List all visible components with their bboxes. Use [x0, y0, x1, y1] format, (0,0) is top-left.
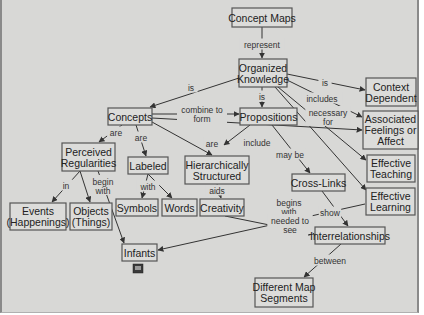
concept-node-propositions[interactable]: Propositions — [240, 108, 298, 125]
concept-map-diagram: representisisisincludesnecessaryforcombi… — [0, 0, 424, 315]
concept-node-cross-links[interactable]: Cross-Links — [291, 174, 346, 191]
concept-node-label: Infants — [124, 247, 156, 259]
link-label: show — [320, 208, 341, 218]
concept-node-label: ContextDependent — [365, 81, 416, 104]
link-label: between — [314, 256, 346, 266]
concept-node-label: EffectiveLearning — [370, 190, 411, 213]
concept-node-label: Cross-Links — [291, 177, 346, 189]
concept-node-effective-learning[interactable]: EffectiveLearning — [366, 188, 415, 215]
concept-node-label: PerceivedRegularities — [61, 146, 116, 169]
link-label: beginwith — [93, 177, 114, 196]
link-label: is — [259, 92, 265, 102]
concept-node-effective-teaching[interactable]: EffectiveTeaching — [367, 155, 415, 182]
concept-node-concept-maps[interactable]: Concept Maps — [228, 8, 296, 27]
edge-perceived_regularities-to-objects — [80, 171, 90, 202]
concept-node-perceived-regularities[interactable]: PerceivedRegularities — [61, 143, 116, 171]
concept-node-label: HierarchicallyStructured — [185, 159, 249, 182]
concept-node-concepts[interactable]: Concepts — [108, 108, 152, 125]
link-label: in — [63, 181, 70, 191]
concept-node-infants[interactable]: Infants — [122, 244, 157, 261]
concept-node-label: EffectiveTeaching — [370, 157, 412, 180]
concept-node-label: Words — [164, 202, 194, 214]
link-label: with — [139, 182, 155, 192]
small-document-icon[interactable] — [133, 264, 143, 273]
concept-node-creativity[interactable]: Creativity — [200, 199, 245, 216]
concept-node-label: Symbols — [117, 202, 157, 214]
concept-node-symbols[interactable]: Symbols — [116, 199, 158, 216]
concept-node-associated-feelings[interactable]: AssociatedFeelings orAffect — [363, 111, 418, 149]
concept-node-label: Different MapSegments — [253, 281, 316, 304]
link-label: includes — [306, 94, 337, 104]
link-label: include — [244, 138, 271, 148]
link-label: may be — [276, 150, 304, 160]
concept-node-label: Objects(Things) — [72, 205, 111, 228]
link-label: represent — [244, 40, 281, 50]
nodes-layer: Concept MapsOrganizedKnowledgeContextDep… — [6, 8, 418, 307]
concept-node-objects[interactable]: Objects(Things) — [70, 203, 112, 230]
concept-node-label: Creativity — [200, 202, 245, 214]
concept-node-different-map-segments[interactable]: Different MapSegments — [253, 278, 316, 307]
link-label: are — [206, 139, 219, 149]
concept-node-words[interactable]: Words — [162, 199, 197, 216]
concept-node-label: Concept Maps — [228, 12, 296, 24]
concept-node-label: Labeled — [129, 160, 167, 172]
concept-node-label: Concepts — [108, 111, 152, 123]
concept-node-label: Propositions — [240, 111, 298, 123]
concept-node-events[interactable]: Events(Happenings) — [6, 203, 69, 230]
link-label: are — [110, 128, 123, 138]
concept-node-organized-knowledge[interactable]: OrganizedKnowledge — [237, 59, 289, 87]
concept-node-interrelationships[interactable]: Interrelationships — [310, 227, 390, 244]
concept-node-context-dependent[interactable]: ContextDependent — [365, 78, 416, 106]
edge-concepts-to-hierarchically_structured — [152, 122, 212, 155]
link-label: is — [322, 78, 328, 88]
concept-node-label: OrganizedKnowledge — [237, 62, 289, 85]
concept-node-hierarchically-structured[interactable]: HierarchicallyStructured — [185, 156, 249, 184]
link-label: are — [135, 133, 148, 143]
link-label: aids — [209, 186, 225, 196]
concept-node-labeled[interactable]: Labeled — [128, 157, 168, 174]
concept-node-label: Interrelationships — [310, 230, 390, 242]
link-label: is — [188, 83, 194, 93]
